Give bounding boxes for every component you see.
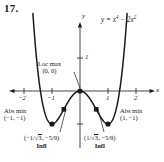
equation-part-2: − 2x bbox=[118, 16, 133, 24]
abs-min-left-label: Abs min bbox=[4, 107, 26, 114]
equation-part-1: y = x bbox=[101, 16, 116, 24]
y-axis-label: y bbox=[82, 12, 85, 20]
x-axis-label: x bbox=[156, 86, 159, 94]
abs-min-left-annotation: Abs min (−1, −1) bbox=[4, 107, 26, 122]
inflection-left-caption: Infl bbox=[24, 142, 59, 149]
inflection-right-coords: (1/√3, −5/9) bbox=[84, 134, 116, 142]
infl-right-open: (1/ bbox=[84, 134, 91, 141]
x-tick-label-2: 2 bbox=[134, 94, 137, 101]
loc-max-annotation: Loc max (0, 0) bbox=[38, 60, 61, 75]
inflection-right-annotation: (1/√3, −5/9) Infl bbox=[84, 134, 116, 149]
loc-max-point: (0, 0) bbox=[38, 67, 61, 74]
abs-min-right-label: Abs min bbox=[120, 107, 142, 114]
equation-label: y = x4 − 2x2 bbox=[101, 16, 136, 24]
y-tick-label-1: 1 bbox=[85, 53, 88, 60]
infl-right-rest: , −5/9) bbox=[98, 134, 115, 141]
equation-exponent-2: 2 bbox=[134, 14, 137, 20]
abs-min-right-annotation: Abs min (1, −1) bbox=[120, 107, 142, 122]
infl-left-rest: , −5/9) bbox=[42, 134, 59, 141]
abs-min-left-point: (−1, −1) bbox=[4, 114, 26, 121]
loc-max-label: Loc max bbox=[38, 60, 61, 67]
x-tick-label-neg2: −2 bbox=[18, 94, 26, 101]
inflection-left-coords: (−1/√3, −5/9) bbox=[24, 134, 59, 142]
x-tick-label-neg1: −1 bbox=[47, 94, 55, 101]
infl-left-open: (−1/ bbox=[24, 134, 35, 141]
figure-container: 17. bbox=[0, 0, 164, 162]
x-tick-label-1: 1 bbox=[106, 94, 109, 101]
inflection-right-caption: Infl bbox=[84, 142, 116, 149]
abs-min-right-point: (1, −1) bbox=[120, 114, 142, 121]
inflection-left-annotation: (−1/√3, −5/9) Infl bbox=[24, 134, 59, 149]
